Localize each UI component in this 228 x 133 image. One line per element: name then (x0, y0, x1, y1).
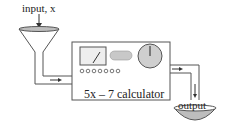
machine-label: 5x – 7 calculator (84, 87, 164, 102)
indicator-capsule-icon (110, 51, 132, 60)
flow-arrow-icon (58, 78, 62, 82)
dial-icon (138, 44, 162, 68)
flow-arrow-icon (179, 67, 183, 71)
input-label: input, x (22, 2, 56, 14)
funnel-icon (19, 27, 59, 71)
output-label: output (178, 99, 206, 111)
function-machine-diagram (0, 0, 228, 133)
meter-icon (80, 47, 106, 65)
output-arrowhead-icon (193, 94, 197, 98)
